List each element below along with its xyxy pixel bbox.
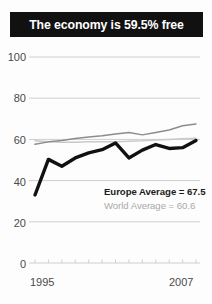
chart-card: The economy is 59.5% free 100 80 60 40 2… bbox=[0, 0, 212, 304]
chart-plot-area bbox=[0, 0, 212, 304]
y-tick-label-0: 0 bbox=[0, 259, 26, 270]
y-tick-label-100: 100 bbox=[0, 52, 26, 63]
y-tick-label-60: 60 bbox=[0, 135, 26, 146]
y-tick-label-20: 20 bbox=[0, 218, 26, 229]
y-tick-label-40: 40 bbox=[0, 177, 26, 188]
x-tick-label-end: 2007 bbox=[169, 277, 193, 288]
legend: Europe Average = 67.5 World Average = 60… bbox=[104, 186, 206, 211]
legend-item-europe-average: Europe Average = 67.5 bbox=[104, 186, 206, 197]
legend-item-world-average: World Average = 60.6 bbox=[104, 200, 206, 211]
line-chart bbox=[0, 0, 212, 304]
y-tick-label-80: 80 bbox=[0, 93, 26, 104]
x-tick-label-start: 1995 bbox=[30, 277, 54, 288]
